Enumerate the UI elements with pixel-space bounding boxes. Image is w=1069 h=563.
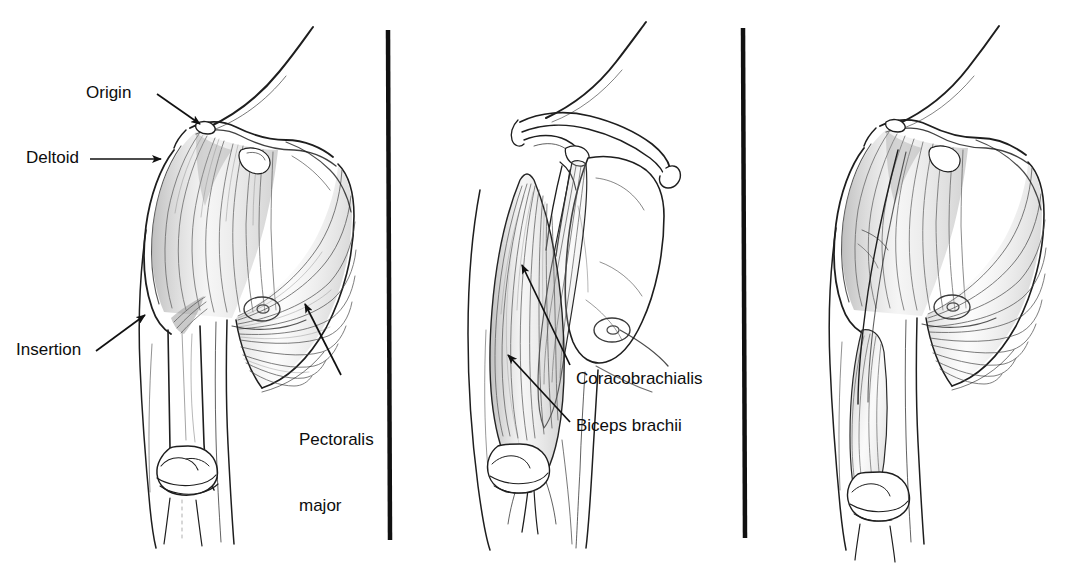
divider-2	[743, 28, 745, 538]
label-pectoralis-major-line2: major	[299, 495, 374, 517]
label-insertion: Insertion	[16, 339, 81, 360]
label-pectoralis-major: Pectoralis major	[299, 385, 374, 561]
label-pectoralis-major-line1: Pectoralis	[299, 429, 374, 451]
divider-1	[388, 30, 390, 540]
label-coracobrachialis: Coracobrachialis	[576, 368, 703, 389]
anatomy-figure: Origin Deltoid Insertion Pectoralis majo…	[0, 0, 1069, 563]
label-origin: Origin	[86, 82, 131, 103]
label-biceps-brachii: Biceps brachii	[576, 415, 682, 436]
label-deltoid: Deltoid	[26, 147, 79, 168]
anatomy-illustration	[0, 0, 1069, 563]
